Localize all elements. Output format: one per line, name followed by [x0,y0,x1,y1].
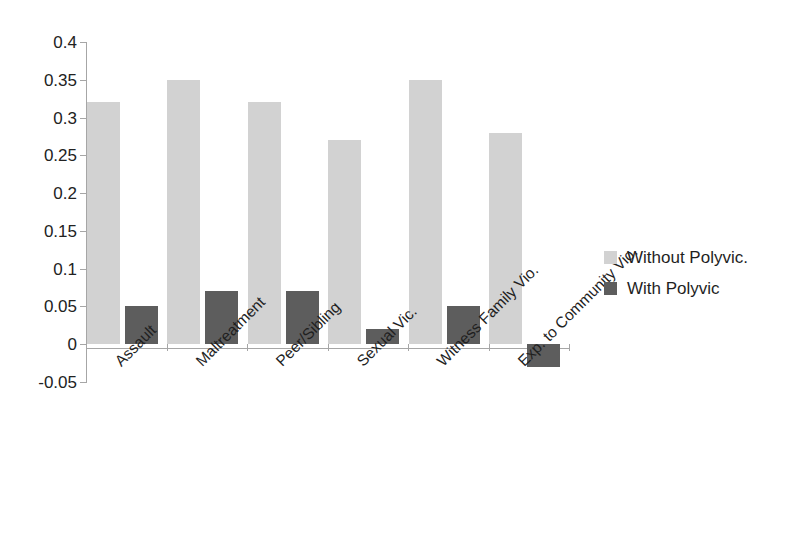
chart-legend: Without Polyvic.With Polyvic [604,242,748,304]
x-axis-tick [569,344,570,351]
y-axis-tick-label: 0.05 [44,298,77,315]
legend-swatch-icon [604,251,617,264]
legend-swatch-icon [604,282,617,295]
y-axis-tick-label: 0.1 [53,260,77,277]
legend-item: Without Polyvic. [604,242,748,273]
y-axis-tick-label: 0.15 [44,222,77,239]
y-axis-tick-label: 0.4 [53,34,77,51]
bar-without-polyvic [409,80,442,344]
y-axis-tick-label: 0.2 [53,185,77,202]
y-axis-tick-label: 0.3 [53,109,77,126]
legend-label: With Polyvic [627,280,720,297]
y-axis-tick-label: -0.05 [38,374,77,391]
y-axis-tick-label: 0 [68,336,77,353]
y-axis-tick-label: 0.35 [44,71,77,88]
y-axis-tick [80,382,86,383]
legend-label: Without Polyvic. [627,249,748,266]
plot-area: -0.0500.050.10.150.20.250.30.350.4 [86,42,569,382]
bar-without-polyvic [167,80,200,344]
bar-without-polyvic [87,102,120,344]
y-axis-tick-label: 0.25 [44,147,77,164]
bar-chart: -0.0500.050.10.150.20.250.30.350.4 Assau… [0,0,798,554]
legend-item: With Polyvic [604,273,748,304]
